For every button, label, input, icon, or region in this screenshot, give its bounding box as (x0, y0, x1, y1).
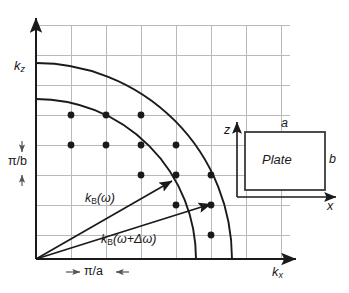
y-axis-label: kz (14, 59, 25, 74)
mode-point (68, 142, 75, 149)
pi-over-b-label: π/b (8, 155, 27, 168)
k-b-omega-label: kB(ω) (85, 192, 115, 206)
outer-arc (36, 63, 232, 259)
mode-point (208, 202, 215, 209)
mode-point (173, 142, 180, 149)
k-b-omega-delta-label: kB(ω+Δω) (101, 233, 156, 247)
mode-point (208, 232, 215, 239)
inset-dimension-a-label: a (281, 117, 288, 130)
inset-z-label: z (224, 124, 230, 137)
mode-point (103, 112, 110, 119)
x-axis-label: kx (272, 265, 283, 280)
plate-body-label: Plate (262, 153, 292, 166)
inset-x-label: x (327, 200, 333, 213)
mode-point (103, 142, 110, 149)
mode-point (138, 142, 145, 149)
mode-point (68, 112, 75, 119)
figure-canvas (0, 0, 349, 293)
brillouin-arcs (36, 63, 232, 259)
k-space-figure: kz kx π/b π/a kB(ω) kB(ω+Δω) z x a b Pla… (0, 0, 349, 293)
mode-point (173, 202, 180, 209)
mode-point (138, 172, 145, 179)
mode-point (173, 172, 180, 179)
mode-point (138, 112, 145, 119)
wavevector-arrows (36, 181, 211, 259)
inset-dimension-b-label: b (329, 153, 336, 166)
pi-over-a-label: π/a (84, 265, 103, 278)
mode-point (208, 172, 215, 179)
